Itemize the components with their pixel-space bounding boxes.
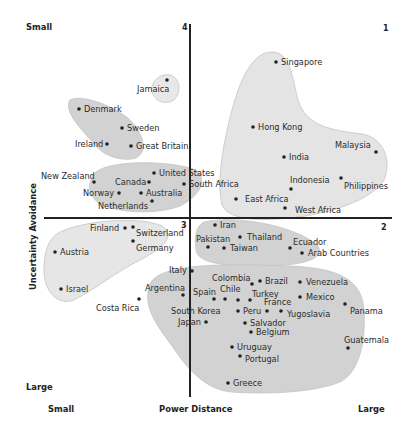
data-point-guatemala (346, 346, 350, 350)
country-label: Greece (233, 378, 262, 388)
data-point-costa-rica (137, 297, 141, 301)
country-label: Portugal (245, 354, 279, 364)
cultural-dimensions-chart: Small Large Small Power Distance Large U… (0, 0, 411, 435)
data-point-sweden (120, 126, 124, 130)
country-label: Denmark (84, 104, 122, 114)
country-label: United States (159, 168, 214, 178)
country-label: Israel (66, 284, 88, 294)
country-label: France (264, 297, 291, 307)
country-label: Netherlands (98, 201, 148, 211)
data-point-hong-kong (251, 125, 255, 129)
country-label: Philippines (344, 181, 388, 191)
data-point-germany (131, 239, 135, 243)
country-label: South Korea (171, 306, 221, 316)
country-label: Norway (83, 188, 114, 198)
country-label: Costa Rica (96, 303, 139, 313)
country-label: Australia (146, 188, 182, 198)
data-point-mexico (298, 295, 302, 299)
data-point-portugal (238, 354, 242, 358)
data-point-east-africa (234, 197, 238, 201)
data-point-chile (223, 297, 227, 301)
data-point-australia (139, 191, 143, 195)
country-label: Argentina (145, 283, 185, 293)
country-label: Panama (350, 306, 383, 316)
data-point-great-britain (129, 144, 133, 148)
data-point-argentina (181, 293, 185, 297)
x-small-label: Small (48, 404, 74, 414)
data-point-jamaica (165, 78, 169, 82)
country-label: Taiwan (229, 243, 258, 253)
data-point-spain (212, 297, 216, 301)
data-point-france (265, 309, 269, 313)
country-label: Ireland (75, 139, 103, 149)
data-point-canada (147, 180, 151, 184)
x-title: Power Distance (159, 404, 233, 414)
quadrant-1-label: 1 (383, 24, 389, 33)
country-label: India (289, 152, 309, 162)
data-point-pakistan (206, 245, 210, 249)
country-label: Japan (177, 317, 201, 327)
country-label: Switzerland (136, 228, 184, 238)
country-label: Indonesia (290, 175, 330, 185)
data-point-norway (117, 191, 121, 195)
data-point-arab-countries (300, 251, 304, 255)
country-label: Guatemala (344, 335, 389, 345)
data-point-switzerland (131, 225, 135, 229)
y-large-label: Large (26, 382, 53, 392)
country-label: Brazil (265, 276, 288, 286)
country-label: Yugoslavia (286, 309, 330, 319)
data-point-thailand (238, 235, 242, 239)
country-label: Arab Countries (308, 248, 369, 258)
y-small-label: Small (26, 22, 52, 32)
country-label: Colombia (212, 273, 250, 283)
data-point-finland (123, 226, 127, 230)
data-point-salvador (243, 321, 247, 325)
data-point-uruguay (230, 345, 234, 349)
country-label: Venezuela (306, 277, 348, 287)
data-point-colombia (250, 282, 254, 286)
data-point-belgium (249, 330, 253, 334)
country-label: Singapore (281, 57, 322, 67)
country-label: Malaysia (335, 140, 371, 150)
country-label: Sweden (127, 123, 159, 133)
data-point-greece (226, 381, 230, 385)
country-label: New Zealand (41, 171, 95, 181)
data-point-italy (190, 269, 194, 273)
country-label: Iran (220, 220, 236, 230)
country-label: Uruguay (237, 342, 272, 352)
x-large-label: Large (358, 404, 385, 414)
data-point-indonesia (289, 187, 293, 191)
data-point-india (282, 155, 286, 159)
y-title: Uncertainty Avoidance (28, 183, 38, 290)
country-label: Great Britain (136, 141, 188, 151)
country-label: Pakistan (196, 234, 230, 244)
country-label: Germany (136, 243, 174, 253)
data-point-israel (59, 287, 63, 291)
data-point-united-states (152, 171, 156, 175)
country-label: Peru (243, 306, 261, 316)
data-point-west-africa (283, 206, 287, 210)
data-point-iran (213, 223, 217, 227)
country-label: Canada (115, 177, 146, 187)
data-point-south-korea (236, 298, 240, 302)
country-label: West Africa (295, 205, 341, 215)
country-label: Austria (60, 247, 89, 257)
data-point-singapore (274, 60, 278, 64)
data-point-panama (343, 302, 347, 306)
data-point-austria (53, 250, 57, 254)
data-point-denmark (77, 107, 81, 111)
data-point-ecuador (288, 246, 292, 250)
country-label: East Africa (245, 194, 289, 204)
data-point-ireland (105, 142, 109, 146)
data-point-philippines (339, 176, 343, 180)
quadrant-2-label: 2 (381, 223, 387, 232)
country-label: Jamaica (136, 84, 169, 94)
country-label: Italy (169, 265, 187, 275)
data-point-malaysia (374, 150, 378, 154)
country-label: Belgium (256, 327, 290, 337)
data-point-yugoslavia (279, 309, 283, 313)
country-label: Ecuador (293, 237, 327, 247)
country-label: Hong Kong (258, 122, 303, 132)
data-point-netherlands (150, 199, 154, 203)
country-label: Mexico (306, 292, 335, 302)
